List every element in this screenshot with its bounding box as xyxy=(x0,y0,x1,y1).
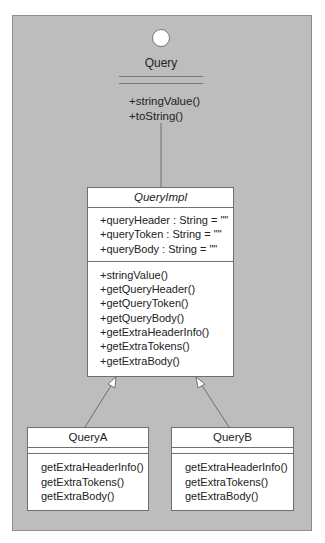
operation: +getQueryHeader() xyxy=(100,282,233,296)
operation: getExtraTokens() xyxy=(41,475,148,490)
class-name: QueryB xyxy=(172,428,293,448)
operation: getExtraHeaderInfo() xyxy=(185,460,293,475)
operation: +getExtraBody() xyxy=(100,354,233,368)
operation: +getQueryBody() xyxy=(100,311,233,325)
class-name: QueryA xyxy=(28,428,148,448)
class-queryimpl: QueryImpl +queryHeader : String = "" +qu… xyxy=(87,187,234,377)
class-querya: QueryA getExtraHeaderInfo() getExtraToke… xyxy=(27,427,149,511)
operation: +stringValue() xyxy=(129,94,200,109)
attribute: +queryToken : String = "" xyxy=(100,227,233,241)
operation: +toString() xyxy=(129,109,200,124)
interface-name: Query xyxy=(110,56,212,70)
interface-operations: +stringValue() +toString() xyxy=(129,94,200,124)
operation: getExtraHeaderInfo() xyxy=(41,460,148,475)
operation: getExtraBody() xyxy=(41,489,148,504)
class-operations: getExtraHeaderInfo() getExtraTokens() ge… xyxy=(172,454,293,508)
operation: getExtraBody() xyxy=(185,489,293,504)
operation: +getExtraTokens() xyxy=(100,339,233,353)
interface-divider-1 xyxy=(119,76,203,77)
class-operations: +stringValue() +getQueryHeader() +getQue… xyxy=(88,262,233,372)
class-attributes: +queryHeader : String = "" +queryToken :… xyxy=(88,208,233,262)
attribute: +queryHeader : String = "" xyxy=(100,213,233,227)
operation: getExtraTokens() xyxy=(185,475,293,490)
attribute: +queryBody : String = "" xyxy=(100,242,233,256)
interface-divider-2 xyxy=(119,83,203,84)
interface-circle-icon xyxy=(152,29,170,47)
class-name: QueryImpl xyxy=(88,188,233,208)
class-operations: getExtraHeaderInfo() getExtraTokens() ge… xyxy=(28,454,148,508)
operation: +stringValue() xyxy=(100,268,233,282)
operation: +getQueryToken() xyxy=(100,296,233,310)
class-queryb: QueryB getExtraHeaderInfo() getExtraToke… xyxy=(171,427,294,511)
operation: +getExtraHeaderInfo() xyxy=(100,325,233,339)
